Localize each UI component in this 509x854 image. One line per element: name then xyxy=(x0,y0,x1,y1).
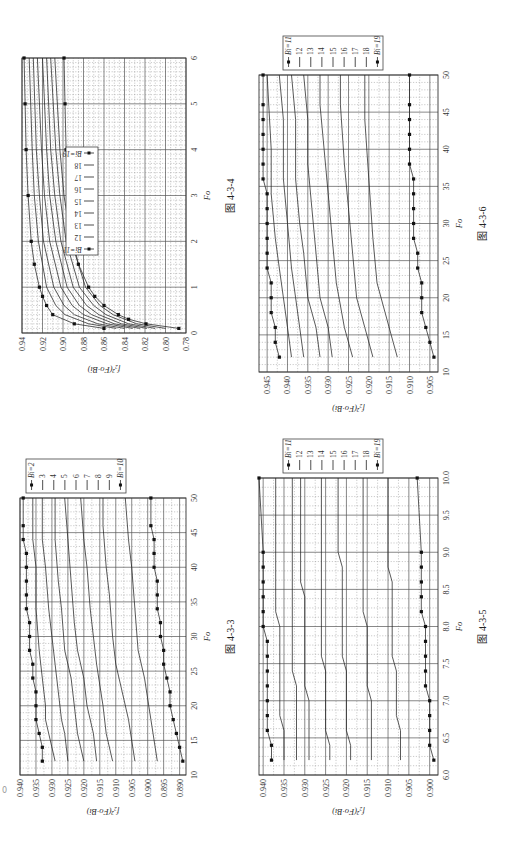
square-marker-icon xyxy=(25,580,28,583)
svg-text:40: 40 xyxy=(190,563,199,571)
svg-text:16: 16 xyxy=(340,450,349,458)
square-marker-icon xyxy=(25,593,28,596)
square-marker-icon xyxy=(420,610,423,613)
svg-text:30: 30 xyxy=(190,633,199,641)
svg-text:17: 17 xyxy=(351,450,360,458)
svg-text:12: 12 xyxy=(295,450,304,458)
square-marker-icon xyxy=(45,304,48,307)
svg-text:Bi=19: Bi=19 xyxy=(373,439,382,458)
svg-text:0.920: 0.920 xyxy=(365,376,374,394)
rotated-chart-frame: 1015202530354045500.9050.9100.9150.9200.… xyxy=(245,25,500,420)
svg-text:0.925: 0.925 xyxy=(345,376,354,394)
svg-text:3: 3 xyxy=(38,474,47,478)
legend: Bi=1112131415161718Bi=19 xyxy=(283,36,383,70)
svg-text:0.86: 0.86 xyxy=(100,337,109,351)
square-marker-icon xyxy=(262,610,265,613)
square-marker-icon xyxy=(428,699,431,702)
svg-text:15: 15 xyxy=(442,331,451,339)
square-marker-icon xyxy=(420,311,423,314)
svg-text:0.905: 0.905 xyxy=(128,779,137,797)
square-marker-icon xyxy=(428,744,431,747)
square-marker-icon xyxy=(270,311,273,314)
svg-text:0.895: 0.895 xyxy=(160,779,169,797)
square-marker-icon xyxy=(177,327,180,330)
svg-text:15: 15 xyxy=(74,197,82,206)
svg-text:15: 15 xyxy=(329,47,338,55)
svg-text:Bi=11: Bi=11 xyxy=(284,439,293,458)
svg-text:40: 40 xyxy=(442,145,451,153)
svg-text:0.920: 0.920 xyxy=(80,779,89,797)
series-line-18 xyxy=(365,75,398,357)
series-line-17 xyxy=(340,75,373,357)
x-tick-labels: 0123456 xyxy=(190,56,199,335)
svg-text:4: 4 xyxy=(49,474,58,478)
chart-svg: 1015202530354045500.8900.8950.9000.9050.… xyxy=(8,428,248,823)
square-marker-icon xyxy=(159,621,162,624)
square-marker-icon xyxy=(175,732,178,735)
svg-text:16: 16 xyxy=(74,185,82,194)
svg-text:0.88: 0.88 xyxy=(80,337,89,351)
square-marker-icon xyxy=(262,595,265,598)
square-marker-icon xyxy=(408,133,411,136)
square-marker-icon xyxy=(168,690,171,693)
square-marker-icon xyxy=(432,356,435,359)
series-line-Bi11 xyxy=(259,478,272,760)
svg-text:5: 5 xyxy=(190,102,199,106)
y-tick-labels: 0.780.800.820.840.860.880.900.920.94 xyxy=(18,337,191,351)
series-line-13 xyxy=(279,75,303,357)
svg-text:6: 6 xyxy=(190,56,199,60)
square-marker-icon xyxy=(31,676,34,679)
square-marker-icon xyxy=(162,663,165,666)
square-marker-icon xyxy=(30,240,33,243)
svg-text:6: 6 xyxy=(72,474,81,478)
svg-text:18: 18 xyxy=(74,161,82,170)
square-marker-icon xyxy=(266,266,269,269)
square-marker-icon xyxy=(412,222,415,225)
svg-text:20: 20 xyxy=(190,702,199,710)
square-marker-icon xyxy=(261,163,264,166)
svg-text:17: 17 xyxy=(74,173,82,182)
svg-text:50: 50 xyxy=(442,71,451,79)
x-axis-title: Fo xyxy=(202,632,212,642)
svg-text:12: 12 xyxy=(295,47,304,55)
svg-text:0.94: 0.94 xyxy=(18,337,27,351)
square-marker-icon xyxy=(261,133,264,136)
square-marker-icon xyxy=(93,295,96,298)
square-marker-icon xyxy=(152,552,155,555)
square-marker-icon xyxy=(149,496,152,499)
svg-text:0.78: 0.78 xyxy=(182,337,191,351)
svg-text:17: 17 xyxy=(351,47,360,55)
square-marker-icon xyxy=(181,760,184,763)
y-axis-title: f₂²(Fo·Bi) xyxy=(88,365,121,375)
svg-text:25: 25 xyxy=(190,667,199,675)
x-tick-labels: 101520253035404550 xyxy=(442,71,451,376)
grid xyxy=(259,478,438,775)
square-marker-icon xyxy=(34,704,37,707)
svg-text:0.935: 0.935 xyxy=(32,779,41,797)
square-marker-icon xyxy=(178,746,181,749)
legend: Bi=1112131415161718Bi=19 xyxy=(63,147,98,255)
square-marker-icon xyxy=(420,281,423,284)
square-marker-icon xyxy=(156,580,159,583)
y-axis-title: f₂²(Fo·Bi) xyxy=(87,807,120,817)
svg-text:Bi=10: Bi=10 xyxy=(116,459,125,478)
svg-text:0.930: 0.930 xyxy=(48,779,57,797)
square-marker-icon xyxy=(266,640,269,643)
svg-text:13: 13 xyxy=(306,47,315,55)
square-marker-icon xyxy=(266,714,269,717)
chart-fig-4-3-6: 1015202530354045500.9050.9100.9150.9200.… xyxy=(245,25,500,420)
svg-text:4: 4 xyxy=(190,148,199,152)
svg-text:45: 45 xyxy=(442,108,451,116)
svg-text:0.935: 0.935 xyxy=(280,779,289,797)
x-axis-title: Fo xyxy=(454,622,464,632)
square-marker-icon xyxy=(28,621,31,624)
svg-text:1: 1 xyxy=(190,285,199,289)
square-marker-icon xyxy=(257,476,260,479)
square-marker-icon xyxy=(420,296,423,299)
square-marker-icon xyxy=(270,744,273,747)
square-marker-icon xyxy=(34,690,37,693)
svg-text:0.910: 0.910 xyxy=(406,376,415,394)
y-tick-labels: 0.9050.9100.9150.9200.9250.9300.9350.940… xyxy=(263,376,435,394)
svg-text:8.0: 8.0 xyxy=(442,622,451,632)
legend: Bi=23456789Bi=10 xyxy=(26,459,126,493)
